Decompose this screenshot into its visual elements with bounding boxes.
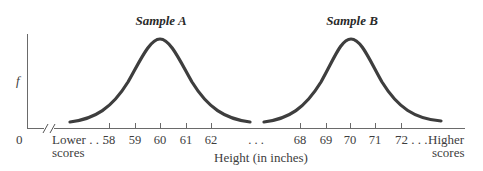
tick-label-59: 59 (129, 133, 142, 148)
tick-label-61: 61 (180, 133, 193, 148)
tick-label-70: 70 (344, 133, 357, 148)
tick-label-62: 62 (205, 133, 218, 148)
curve-sample-a (70, 39, 250, 122)
x-ticks-b (301, 123, 402, 128)
y-axis-label: f (16, 74, 20, 87)
tick-label-69: 69 (320, 133, 333, 148)
curve-sample-b (264, 39, 441, 122)
tick-label-60: 60 (154, 133, 167, 148)
higher-scores-label-line2: scores (432, 146, 465, 159)
x-axis-label: Height (in inches) (214, 151, 308, 164)
sample-a-title: Sample A (135, 13, 186, 29)
gap-ellipsis: . . . (248, 133, 264, 148)
tick-label-72: 72 . . . (395, 133, 428, 146)
tick-label-71: 71 (369, 133, 382, 148)
origin-label: 0 (16, 133, 23, 146)
x-ticks-a (110, 123, 212, 128)
sample-b-title: Sample B (326, 13, 378, 29)
tick-label-58: 58 (103, 133, 116, 148)
lower-scores-label-line2: scores (52, 146, 85, 159)
tick-label-68: 68 (294, 133, 307, 148)
